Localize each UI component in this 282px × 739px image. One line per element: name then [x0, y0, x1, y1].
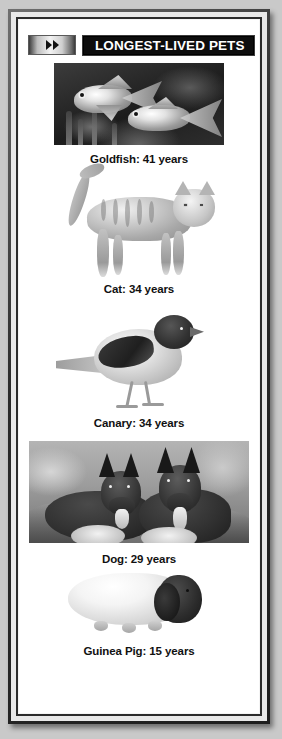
list-item-goldfish: Goldfish: 41 years: [18, 63, 260, 163]
fast-forward-icon[interactable]: [28, 35, 76, 55]
cat-ear-right: [199, 181, 215, 195]
canary-eye: [180, 327, 183, 330]
dog-left-ear-right: [123, 453, 139, 477]
cat-hind-leg-1: [97, 229, 109, 277]
list-item-dog: Dog: 29 years: [18, 441, 260, 565]
cat-stripe-1: [101, 199, 106, 221]
canary-leg-1: [125, 381, 133, 407]
pet-list: Goldfish: 41 years: [18, 63, 260, 661]
dog-right-chest-marking: [141, 527, 197, 543]
guinea-pig-foot-1: [94, 621, 108, 631]
dog-left-tongue: [115, 509, 129, 529]
cat-tail-tip: [78, 161, 107, 182]
canary-beak: [190, 327, 204, 337]
list-item-guinea-pig: Guinea Pig: 15 years: [18, 565, 260, 661]
canary-foot-2: [142, 403, 164, 406]
cat-stripe-2: [113, 199, 118, 225]
cat-stripe-4: [137, 199, 142, 225]
cat-stripe-5: [149, 201, 154, 223]
list-item-canary: Canary: 34 years: [18, 303, 260, 441]
aquatic-plant-4: [112, 123, 117, 145]
canary-illustration: [54, 303, 224, 415]
triangle-right-icon-2: [53, 40, 59, 50]
list-item-caption: Dog: 29 years: [18, 553, 260, 565]
canary-head: [154, 315, 194, 349]
panel-header: LONGEST-LIVED PETS: [18, 31, 260, 59]
longest-lived-pets-panel: LONGEST-LIVED PETS: [16, 17, 262, 716]
list-item-caption: Guinea Pig: 15 years: [18, 645, 260, 657]
goldfish-photo: [54, 63, 224, 145]
dog-left-chest-marking: [71, 525, 125, 543]
dog-left-eye-left: [109, 485, 112, 488]
dog-right-eye-left: [167, 479, 170, 482]
canary-foot-1: [116, 405, 138, 408]
cat-front-leg-1: [173, 231, 184, 275]
cat-stripe-3: [125, 199, 130, 227]
goldfish-1-eye: [80, 93, 84, 97]
cat-hind-leg-2: [113, 235, 123, 275]
cat-ear-left: [175, 181, 191, 195]
dog-right-ear-left: [157, 447, 174, 473]
guinea-pig-head-patch: [154, 583, 180, 621]
dog-right: [145, 449, 249, 543]
page-title: LONGEST-LIVED PETS: [83, 38, 245, 53]
cat-eye-left: [183, 203, 188, 207]
dog-right-ear-right: [183, 447, 200, 473]
cat-eye-right: [199, 203, 204, 207]
list-item-cat: Cat: 34 years: [18, 163, 260, 303]
goldfish-2-eye: [134, 112, 138, 116]
goldfish-2: [126, 99, 222, 143]
triangle-right-icon-1: [46, 40, 52, 50]
goldfish-2-dorsal-fin: [148, 97, 178, 109]
canary-leg-2: [144, 381, 151, 405]
cat-illustration: [57, 163, 221, 281]
list-item-caption: Cat: 34 years: [18, 283, 260, 295]
title-bar: LONGEST-LIVED PETS: [82, 35, 255, 56]
guinea-pig-foot-3: [148, 621, 162, 631]
goldfish-1-dorsal-fin: [98, 75, 132, 89]
cat-front-leg-2: [161, 233, 171, 275]
goldfish-1-pelvic-fin: [96, 105, 122, 121]
dog-left-ear-left: [99, 453, 115, 477]
list-item-caption: Canary: 34 years: [18, 417, 260, 429]
goldfish-2-tail: [180, 99, 222, 137]
dog-photo: [29, 441, 249, 543]
guinea-pig-eye: [186, 589, 189, 592]
dog-right-eye-right: [187, 479, 190, 482]
dog-left-eye-right: [127, 485, 130, 488]
guinea-pig-illustration: [64, 565, 214, 639]
guinea-pig-foot-2: [122, 623, 136, 633]
